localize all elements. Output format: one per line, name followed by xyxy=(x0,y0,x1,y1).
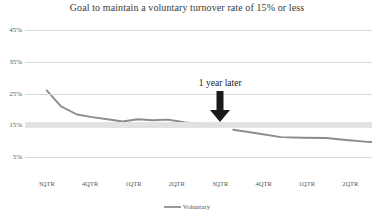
annotation-label-0: 1 year later xyxy=(199,78,242,88)
chart-legend: Voluntary xyxy=(0,203,374,211)
gridline-25% xyxy=(25,94,372,95)
chart-title: Goal to maintain a voluntary turnover ra… xyxy=(0,2,374,13)
y-tick-25%: 25% xyxy=(0,90,22,98)
goal-band xyxy=(25,122,372,128)
legend-swatch-voluntary xyxy=(164,206,181,208)
gridline-5% xyxy=(25,157,372,158)
x-tick-5-4QTR: 4QTR xyxy=(255,180,271,187)
x-tick-3-2QTR: 2QTR xyxy=(169,180,185,187)
series-line-voluntary-seg1 xyxy=(233,130,372,142)
x-tick-7-2QTR: 2QTR xyxy=(342,180,358,187)
x-tick-6-1QTR: 1QTR xyxy=(299,180,315,187)
y-tick-45%: 45% xyxy=(0,26,22,34)
chart-container: Goal to maintain a voluntary turnover ra… xyxy=(0,0,374,220)
x-tick-4-3QTR: 3QTR xyxy=(212,180,228,187)
y-tick-35%: 35% xyxy=(0,58,22,66)
gridline-35% xyxy=(25,62,372,63)
gridline-45% xyxy=(25,30,372,31)
y-tick-15%: 15% xyxy=(0,121,22,129)
x-tick-0-3QTR: 3QTR xyxy=(39,180,55,187)
y-tick-5%: 5% xyxy=(0,153,22,161)
series-line-voluntary-seg0 xyxy=(47,90,218,125)
x-tick-2-1QTR: 1QTR xyxy=(125,180,141,187)
legend-label-voluntary: Voluntary xyxy=(183,203,210,211)
x-tick-1-4QTR: 4QTR xyxy=(82,180,98,187)
annotation-down-arrow-icon xyxy=(207,91,233,123)
plot-area xyxy=(25,30,372,173)
series-layer xyxy=(25,30,372,173)
